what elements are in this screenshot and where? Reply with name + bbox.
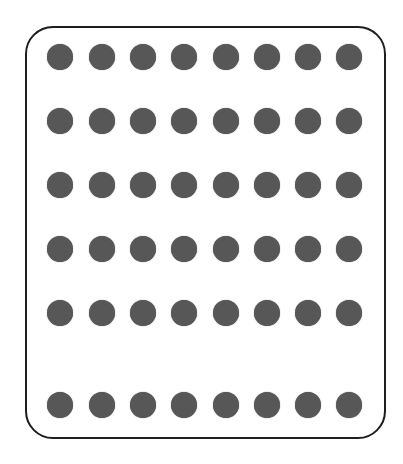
grid-dot	[336, 392, 362, 418]
grid-dot	[213, 108, 239, 134]
grid-dot	[254, 300, 280, 326]
grid-dot	[295, 300, 321, 326]
grid-dot	[130, 392, 156, 418]
grid-dot	[130, 108, 156, 134]
grid-dot	[213, 300, 239, 326]
grid-dot	[130, 300, 156, 326]
grid-dot	[171, 236, 197, 262]
grid-dot	[130, 172, 156, 198]
grid-dot	[171, 44, 197, 70]
grid-dot	[171, 172, 197, 198]
grid-dot	[336, 172, 362, 198]
grid-dot	[295, 392, 321, 418]
grid-dot	[89, 236, 115, 262]
grid-dot	[47, 300, 73, 326]
grid-dot	[130, 44, 156, 70]
grid-dot	[89, 392, 115, 418]
grid-dot	[47, 236, 73, 262]
grid-dot	[213, 44, 239, 70]
grid-dot	[47, 172, 73, 198]
grid-dot	[254, 108, 280, 134]
grid-dot	[295, 44, 321, 70]
grid-dot	[89, 172, 115, 198]
grid-dot	[336, 108, 362, 134]
grid-dot	[130, 236, 156, 262]
grid-dot	[47, 108, 73, 134]
grid-dot	[213, 392, 239, 418]
grid-dot	[171, 392, 197, 418]
grid-dot	[295, 108, 321, 134]
grid-dot	[47, 392, 73, 418]
grid-dot	[171, 300, 197, 326]
grid-dot	[336, 44, 362, 70]
grid-dot	[171, 108, 197, 134]
grid-dot	[295, 172, 321, 198]
rounded-frame	[25, 26, 386, 439]
grid-dot	[89, 108, 115, 134]
grid-dot	[47, 44, 73, 70]
grid-dot	[336, 300, 362, 326]
grid-dot	[295, 236, 321, 262]
grid-dot	[254, 392, 280, 418]
grid-dot	[213, 172, 239, 198]
grid-dot	[254, 172, 280, 198]
grid-dot	[336, 236, 362, 262]
grid-dot	[213, 236, 239, 262]
grid-dot	[254, 44, 280, 70]
grid-dot	[254, 236, 280, 262]
grid-dot	[89, 300, 115, 326]
grid-dot	[89, 44, 115, 70]
